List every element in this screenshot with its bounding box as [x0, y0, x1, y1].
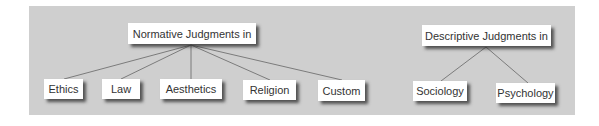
link-normative-religion	[191, 45, 270, 80]
link-normative-ethics	[64, 45, 191, 79]
link-normative-custom	[191, 45, 342, 80]
link-descriptive-sociology	[441, 47, 486, 81]
custom-node: Custom	[318, 80, 365, 101]
diagram-canvas: Normative Judgments in Ethics Law Aesthe…	[0, 0, 599, 126]
psychology-node: Psychology	[496, 83, 555, 103]
law-node: Law	[102, 79, 140, 99]
descriptive-judgments-node: Descriptive Judgments in	[422, 25, 551, 46]
religion-node: Religion	[243, 80, 296, 100]
ethics-node: Ethics	[44, 79, 83, 99]
link-normative-law	[121, 45, 191, 79]
link-descriptive-psychology	[486, 47, 528, 83]
normative-judgments-node: Normative Judgments in	[128, 23, 256, 44]
aesthetics-node: Aesthetics	[160, 79, 222, 99]
sociology-node: Sociology	[413, 81, 467, 101]
connector-lines	[0, 0, 599, 126]
